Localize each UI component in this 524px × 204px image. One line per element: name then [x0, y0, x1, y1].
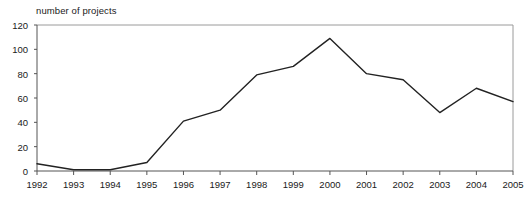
x-tick-label: 2003	[429, 179, 450, 190]
x-tick-label: 2000	[319, 179, 340, 190]
x-tick-label: 2002	[393, 179, 414, 190]
x-tick-label: 1992	[26, 179, 47, 190]
x-tick-label: 1999	[283, 179, 304, 190]
x-tick-label: 2005	[502, 179, 523, 190]
x-tick-label: 1995	[136, 179, 157, 190]
x-tick-label: 2001	[356, 179, 377, 190]
x-tick-label: 1994	[100, 179, 121, 190]
x-tick-label: 1993	[63, 179, 84, 190]
x-tick-label: 1998	[246, 179, 267, 190]
x-tick-label: 1997	[209, 179, 230, 190]
x-tick-label: 2004	[466, 179, 487, 190]
data-series-line	[37, 38, 513, 169]
x-tick-label: 1996	[173, 179, 194, 190]
